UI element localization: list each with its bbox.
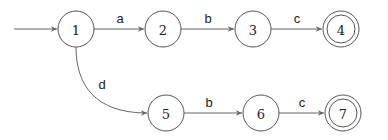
edge-label-b-top: b (204, 11, 211, 26)
automaton-diagram: a b c d b c 1 2 3 4 5 6 7 (0, 0, 388, 140)
state-2: 2 (145, 11, 181, 47)
edge-label-a: a (116, 11, 124, 26)
edge-label-c-top: c (294, 11, 301, 26)
state-3: 3 (235, 11, 271, 47)
edge-label-d: d (98, 77, 105, 92)
svg-text:7: 7 (339, 107, 347, 122)
state-1: 1 (58, 11, 94, 47)
svg-text:6: 6 (257, 107, 265, 122)
edge-label-c-bottom: c (299, 95, 306, 110)
svg-text:4: 4 (337, 23, 345, 38)
svg-text:5: 5 (162, 107, 170, 122)
edge-1-5 (76, 47, 147, 113)
edge-label-b-bottom: b (205, 95, 212, 110)
svg-text:3: 3 (249, 23, 257, 38)
state-6: 6 (243, 95, 279, 131)
state-7-accepting: 7 (325, 95, 361, 131)
svg-text:2: 2 (159, 23, 167, 38)
state-5: 5 (148, 95, 184, 131)
svg-text:1: 1 (72, 23, 80, 38)
state-4-accepting: 4 (323, 11, 359, 47)
